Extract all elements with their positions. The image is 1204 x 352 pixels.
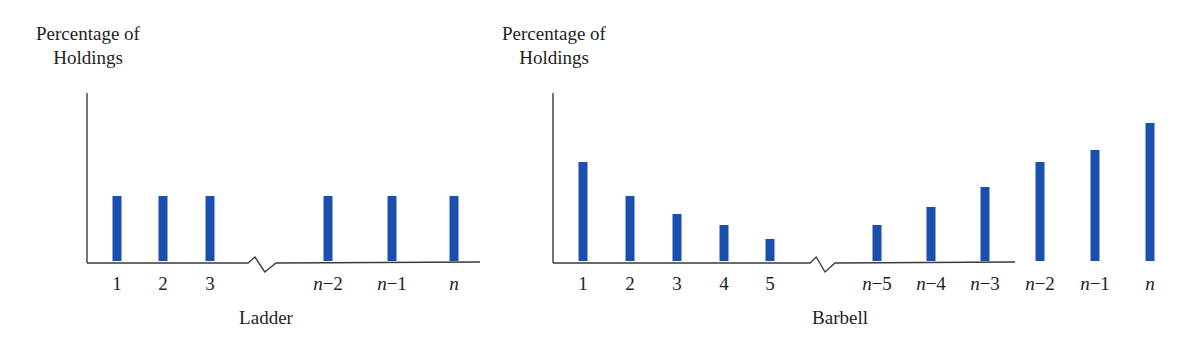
- ladder-bar: [450, 196, 459, 261]
- barbell-x-tick-label: 1: [578, 273, 588, 294]
- barbell-x-tick-label: n−5: [862, 273, 892, 294]
- barbell-bar: [981, 187, 990, 261]
- ladder-x-tick-label: n−1: [377, 273, 407, 294]
- barbell-x-tick-label: 5: [765, 273, 775, 294]
- ladder-bar: [324, 196, 333, 261]
- barbell-bar: [626, 196, 635, 261]
- barbell-x-tick-label: 2: [625, 273, 635, 294]
- barbell-bar: [927, 207, 936, 261]
- ladder-x-axis-title: Ladder: [239, 307, 293, 328]
- ladder-bar: [113, 196, 122, 261]
- ladder-bar: [388, 196, 397, 261]
- ladder-x-tick-label: 3: [205, 273, 215, 294]
- ladder-x-tick-label: 1: [112, 273, 122, 294]
- barbell-bar: [673, 214, 682, 261]
- ladder-bar: [206, 196, 215, 261]
- barbell-x-axis-title: Barbell: [812, 307, 868, 328]
- barbell-x-tick-label: n−2: [1025, 273, 1055, 294]
- barbell-bar: [873, 225, 882, 261]
- barbell-bar: [579, 162, 588, 261]
- barbell-x-tick-label: 4: [719, 273, 729, 294]
- barbell-x-tick-label: n−3: [970, 273, 1000, 294]
- barbell-bar: [1036, 162, 1045, 261]
- barbell-bar: [1146, 123, 1155, 261]
- ladder-x-tick-label: n: [449, 273, 459, 294]
- ladder-x-tick-label: 2: [158, 273, 168, 294]
- barbell-x-tick-label: n−1: [1080, 273, 1110, 294]
- ladder-x-axis-with-break: [87, 257, 480, 272]
- charts-canvas: 123n−2n−1nLadder12345n−5n−4n−3n−2n−1nBar…: [0, 0, 1204, 352]
- barbell-x-tick-label: n−4: [916, 273, 946, 294]
- ladder-bar: [159, 196, 168, 261]
- barbell-bar: [720, 225, 729, 261]
- barbell-bar: [766, 239, 775, 261]
- ladder-x-tick-label: n−2: [313, 273, 343, 294]
- barbell-x-tick-label: 3: [672, 273, 682, 294]
- barbell-bar: [1091, 150, 1100, 261]
- barbell-x-tick-label: n: [1145, 273, 1155, 294]
- barbell-x-axis-with-break: [553, 257, 1015, 272]
